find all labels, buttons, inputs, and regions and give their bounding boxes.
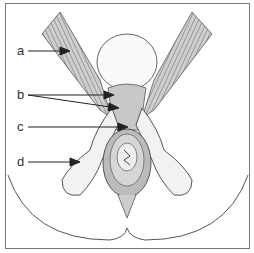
- figure: a b c d: [0, 0, 254, 253]
- label-b: b: [17, 88, 24, 101]
- label-a: a: [17, 44, 24, 57]
- label-d: d: [17, 155, 24, 168]
- label-c: c: [17, 120, 24, 133]
- anatomy-illustration: [0, 0, 254, 253]
